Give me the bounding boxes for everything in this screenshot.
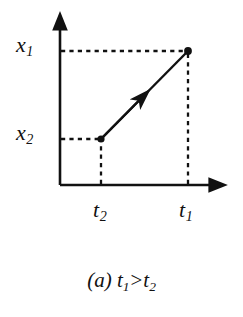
x-tick-label-t1-var: t [179, 197, 185, 222]
point-t1-x1-marker [184, 47, 192, 55]
y-tick-label-x1-var: x [16, 32, 26, 57]
x-tick-label-t1-sub: 1 [186, 208, 193, 224]
y-tick-label-x2-sub: 2 [26, 131, 33, 147]
caption-prefix: (a) [87, 268, 112, 292]
x-tick-label-t2-var: t [93, 197, 99, 222]
caption-rhs-sub: 2 [149, 279, 156, 294]
x-tick-label-t2-sub: 2 [100, 208, 107, 224]
worldline-segment-upper [101, 51, 188, 139]
x-tick-label-t1: t1 [179, 199, 193, 223]
y-tick-label-x1: x1 [16, 34, 33, 58]
x-tick-label-t2: t2 [93, 199, 107, 223]
y-tick-label-x2-var: x [16, 120, 26, 145]
y-tick-label-x2: x2 [16, 122, 33, 146]
y-tick-label-x1-sub: 1 [26, 43, 33, 59]
caption-operator: > [129, 268, 143, 292]
figure-container: x1 x2 t2 t1 (a) t1>t2 [0, 0, 243, 317]
figure-caption: (a) t1>t2 [0, 268, 243, 294]
point-t2-x2-marker [97, 135, 104, 142]
